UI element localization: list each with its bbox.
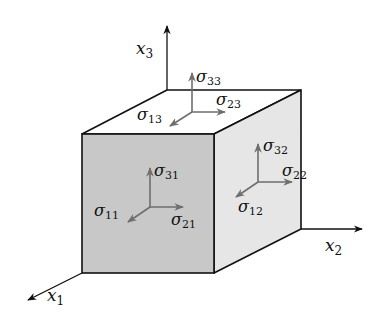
x1-label: x1 [47,285,64,308]
sigma33-label: σ33 [196,67,221,88]
x2-label: x2 [325,235,342,258]
x3-label: x3 [136,38,153,61]
stress-cube-diagram: x3 x2 x1 σ33 σ23 σ13 σ31 σ11 σ21 σ32 σ22… [0,0,382,320]
